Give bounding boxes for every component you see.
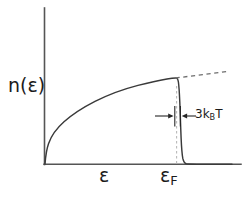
fermi-energy-symbol: ε xyxy=(160,164,170,186)
fermi-energy-subscript: F xyxy=(170,173,177,188)
thermal-width-suffix: T xyxy=(215,107,222,121)
figure-density-of-states: n(ε) ε εF 3kBT xyxy=(0,0,246,198)
dos-extrapolation-dashed xyxy=(176,72,227,78)
width-arrow-left xyxy=(155,114,174,119)
fermi-energy-label: εF xyxy=(160,166,178,188)
y-axis-label: n(ε) xyxy=(8,76,45,95)
thermal-width-annotation: 3kBT xyxy=(195,108,223,121)
plot-canvas xyxy=(0,0,246,198)
width-arrow-right xyxy=(182,114,196,119)
thermal-width-prefix: 3k xyxy=(195,107,210,121)
x-axis-label: ε xyxy=(99,166,109,185)
